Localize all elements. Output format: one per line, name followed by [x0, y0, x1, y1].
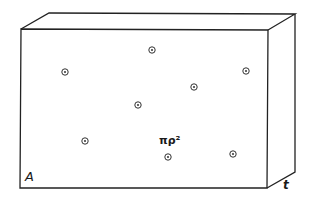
area-label: A [25, 169, 34, 184]
particle-center-icon [245, 70, 247, 72]
particle-center-icon [151, 49, 153, 51]
front-face [20, 29, 268, 188]
cross-section-label: πρ² [159, 134, 180, 147]
particle-markers [62, 47, 249, 160]
slab-diagram [0, 0, 311, 198]
side-face [267, 14, 295, 188]
particle-center-icon [167, 156, 169, 158]
particle-center-icon [137, 104, 139, 106]
particle-center-icon [84, 140, 86, 142]
particle-center-icon [232, 153, 234, 155]
top-face [21, 13, 295, 30]
thickness-label: t [283, 178, 289, 192]
particle-center-icon [64, 71, 66, 73]
particle-center-icon [193, 86, 195, 88]
